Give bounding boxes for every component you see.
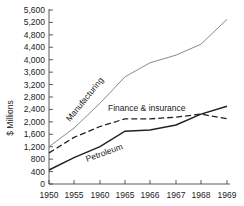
y-tick-label: 3,200 — [24, 80, 46, 90]
y-tick-label: 800 — [31, 154, 45, 164]
x-tick-label: 1968 — [192, 190, 211, 200]
y-tick-label: 2,000 — [24, 117, 46, 127]
y-tick-label: 1,600 — [24, 129, 46, 139]
series-line-finance-insurance — [49, 114, 227, 153]
y-tick-label: 3,600 — [24, 67, 46, 77]
line-chart: 04008001,2001,6002,0002,4002,8003,2003,6… — [0, 0, 244, 206]
y-tick-label: 1,200 — [24, 142, 46, 152]
series-line-manufacturing — [49, 19, 227, 146]
x-tick-label: 1950 — [40, 190, 59, 200]
chart-canvas: 04008001,2001,6002,0002,4002,8003,2003,6… — [0, 0, 244, 206]
x-tick-label: 1966 — [141, 190, 160, 200]
y-tick-label: 5,600 — [24, 5, 46, 15]
y-tick-label: 2,800 — [24, 92, 46, 102]
x-tick-label: 1967 — [167, 190, 186, 200]
x-tick-label: 1965 — [116, 190, 135, 200]
y-axis-label: $ Millions — [5, 100, 15, 135]
y-tick-label: 2,400 — [24, 104, 46, 114]
label-finance-insurance: Finance & insurance — [108, 103, 186, 113]
x-tick-label: 1960 — [91, 190, 110, 200]
y-tick-label: 4,400 — [24, 42, 46, 52]
y-tick-label: 0 — [40, 179, 45, 189]
y-tick-label: 4,800 — [24, 30, 46, 40]
x-tick-label: 1969 — [218, 190, 237, 200]
label-manufacturing: Manufacturing — [64, 75, 106, 123]
series-lines — [49, 19, 227, 170]
y-tick-label: 5,200 — [24, 17, 46, 27]
x-tick-label: 1955 — [65, 190, 84, 200]
y-tick-label: 4,000 — [24, 55, 46, 65]
y-tick-label: 400 — [31, 167, 45, 177]
